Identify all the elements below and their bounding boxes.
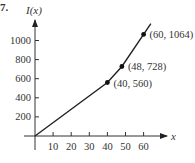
x-tick-label: 60 [138,141,149,152]
y-tick-label: 1000 [10,35,31,46]
x-axis-label: x [170,130,176,142]
data-points: (40, 560)(48, 728)(60, 1064) [105,29,194,89]
data-point-marker [119,64,124,69]
axis-ticks: 1020304050602004006008001000 [10,35,149,152]
x-tick-label: 10 [48,141,59,152]
data-point-label: (48, 728) [128,61,167,73]
y-tick-label: 600 [15,73,31,84]
data-point-label: (60, 1064) [150,29,194,41]
x-tick-label: 40 [102,141,113,152]
y-tick-label: 800 [15,54,31,65]
problem-number: 7. [0,1,9,13]
data-point-marker [105,80,110,85]
data-point-label: (40, 560) [113,78,152,90]
x-tick-label: 50 [120,141,131,152]
x-tick-label: 30 [84,141,95,152]
y-tick-label: 200 [15,111,31,122]
y-tick-label: 400 [15,92,31,103]
x-tick-label: 20 [66,141,77,152]
chart: 7. 1020304050602004006008001000 (40, 560… [0,0,195,163]
data-point-marker [141,32,146,37]
y-axis-label: I(x) [25,4,42,17]
